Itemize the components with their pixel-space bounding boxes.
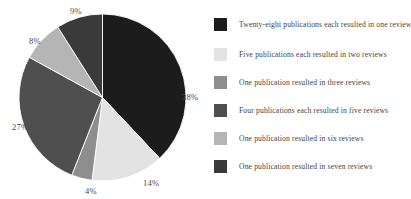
legend-item[interactable]: Four publications each resulted in five … (214, 103, 388, 118)
legend-color-swatch (214, 160, 227, 173)
slice-two-reviews-percent-label: 14% (143, 178, 159, 188)
legend-item[interactable]: One publication resulted in three review… (214, 75, 370, 90)
slice-one-review-percent-label: 38% (182, 92, 198, 102)
legend-item-label: One publication resulted in six reviews (239, 134, 364, 143)
legend-item-label: Twenty-eight publications each resulted … (239, 20, 411, 29)
slice-six-reviews-percent-label: 8% (29, 36, 41, 46)
pie-chart-figure: 38%14%4%27%8%9% Twenty-eight publication… (0, 0, 411, 199)
legend-color-swatch (214, 132, 227, 145)
legend: Twenty-eight publications each resulted … (214, 15, 411, 185)
slice-three-reviews-percent-label: 4% (85, 186, 97, 196)
legend-item[interactable]: Twenty-eight publications each resulted … (214, 17, 411, 32)
legend-item[interactable]: One publication resulted in seven review… (214, 159, 372, 174)
legend-item[interactable]: Five publications each resulted in two r… (214, 47, 387, 62)
slice-five-reviews-percent-label: 27% (12, 122, 28, 132)
pie-plot-area: 38%14%4%27%8%9% (0, 0, 205, 199)
legend-item[interactable]: One publication resulted in six reviews (214, 131, 364, 146)
legend-color-swatch (214, 18, 227, 31)
legend-item-label: One publication resulted in three review… (239, 78, 370, 87)
legend-item-label: Five publications each resulted in two r… (239, 50, 387, 59)
legend-item-label: Four publications each resulted in five … (239, 106, 388, 115)
pie-slice-group (19, 14, 186, 181)
legend-color-swatch (214, 104, 227, 117)
legend-color-swatch (214, 48, 227, 61)
legend-item-label: One publication resulted in seven review… (239, 162, 372, 171)
pie-svg (0, 0, 205, 199)
slice-seven-reviews-percent-label: 9% (70, 6, 82, 16)
legend-color-swatch (214, 76, 227, 89)
